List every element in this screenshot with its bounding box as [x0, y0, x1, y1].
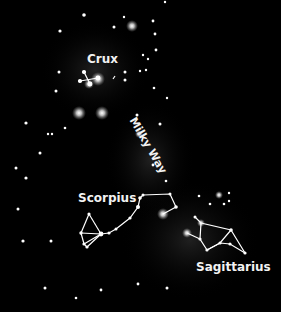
label-crux: Crux: [87, 52, 118, 66]
label-sagittarius: Sagittarius: [196, 260, 271, 274]
label-scorpius: Scorpius: [78, 191, 136, 205]
